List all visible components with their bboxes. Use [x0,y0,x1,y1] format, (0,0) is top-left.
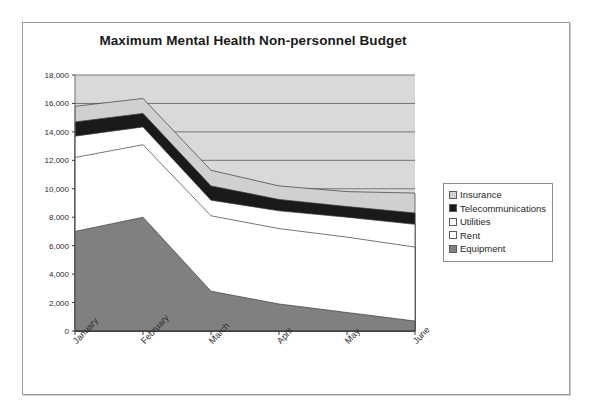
legend-item[interactable]: Telecommunications [449,202,546,216]
legend-item[interactable]: Utilities [449,215,546,229]
legend-item-label: Equipment [460,244,505,254]
legend-swatch-icon [449,191,457,199]
legend-item[interactable]: Equipment [449,242,546,256]
y-axis-tick-label: 4,000 [23,270,69,279]
y-axis-tick-label: 2,000 [23,298,69,307]
y-axis-tick-label: 0 [23,327,69,336]
chart-legend: InsuranceTelecommunicationsUtilitiesRent… [443,183,553,262]
legend-swatch-icon [449,231,457,239]
y-axis-tick-label: 10,000 [23,184,69,193]
y-axis-tick-label: 6,000 [23,241,69,250]
legend-item-label: Utilities [460,217,491,227]
legend-item-label: Insurance [460,190,502,200]
y-axis-tick-label: 18,000 [23,71,69,80]
y-axis-tick-label: 14,000 [23,127,69,136]
legend-swatch-icon [449,204,457,212]
legend-swatch-icon [449,245,457,253]
legend-item[interactable]: Insurance [449,188,546,202]
y-axis-tick-label: 16,000 [23,99,69,108]
legend-item-label: Rent [460,231,480,241]
legend-item[interactable]: Rent [449,229,546,243]
y-axis-tick-label: 8,000 [23,213,69,222]
legend-swatch-icon [449,218,457,226]
legend-item-label: Telecommunications [460,204,546,214]
chart-frame: Maximum Mental Health Non-personnel Budg… [22,22,570,395]
y-axis-tick-label: 12,000 [23,156,69,165]
